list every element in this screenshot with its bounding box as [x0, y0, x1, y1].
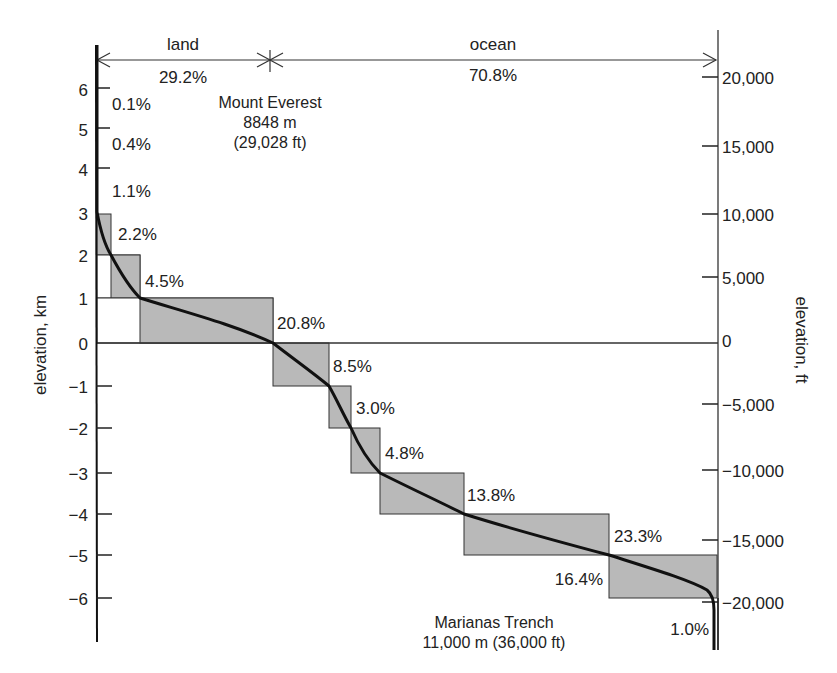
svg-text:6: 6	[79, 81, 88, 100]
svg-text:3.0%: 3.0%	[356, 399, 395, 418]
svg-text:4.5%: 4.5%	[145, 272, 184, 291]
svg-text:8848 m: 8848 m	[243, 114, 296, 131]
left-axis-title: elevation, km	[31, 295, 50, 395]
svg-text:−10,000: −10,000	[722, 462, 784, 481]
svg-text:1: 1	[79, 290, 88, 309]
right-axis-ticks	[702, 77, 718, 602]
svg-text:4.8%: 4.8%	[385, 444, 424, 463]
svg-text:16.4%: 16.4%	[555, 570, 603, 589]
svg-text:Mount Everest: Mount Everest	[218, 94, 322, 111]
land-label: land	[167, 35, 199, 54]
left-axis-tick-labels: 6 5 4 3 2 1 0 −1 −2 −3 −4 −5 −6	[69, 81, 88, 609]
svg-text:1.1%: 1.1%	[112, 182, 151, 201]
svg-text:5: 5	[79, 121, 88, 140]
svg-text:0: 0	[79, 335, 88, 354]
hypsographic-curve	[97, 45, 714, 650]
svg-text:8.5%: 8.5%	[333, 357, 372, 376]
svg-text:20,000: 20,000	[722, 69, 774, 88]
svg-text:Marianas Trench: Marianas Trench	[434, 614, 553, 631]
right-axis-title: elevation, ft	[792, 297, 811, 384]
svg-text:−1: −1	[69, 378, 88, 397]
svg-text:−5,000: −5,000	[722, 396, 774, 415]
svg-text:−6: −6	[69, 590, 88, 609]
ocean-label: ocean	[470, 35, 516, 54]
svg-text:10,000: 10,000	[722, 206, 774, 225]
right-axis-tick-labels: 20,000 15,000 10,000 5,000 0 −5,000 −10,…	[722, 69, 784, 613]
svg-text:4: 4	[79, 161, 88, 180]
ocean-percent: 70.8%	[469, 66, 517, 85]
svg-text:(29,028 ft): (29,028 ft)	[234, 134, 307, 151]
trench-annotation: Marianas Trench 11,000 m (36,000 ft)	[423, 614, 566, 651]
svg-text:5,000: 5,000	[722, 269, 765, 288]
svg-text:11,000 m (36,000 ft): 11,000 m (36,000 ft)	[423, 634, 566, 651]
svg-text:−2: −2	[69, 420, 88, 439]
svg-text:3: 3	[79, 205, 88, 224]
svg-text:−4: −4	[69, 506, 88, 525]
hypsographic-chart: 6 5 4 3 2 1 0 −1 −2 −3 −4 −5 −6 elevatio…	[0, 0, 837, 673]
svg-text:1.0%: 1.0%	[670, 620, 709, 639]
svg-text:−20,000: −20,000	[722, 594, 784, 613]
land-percent: 29.2%	[159, 68, 207, 87]
svg-text:−5: −5	[69, 547, 88, 566]
svg-text:2.2%: 2.2%	[118, 225, 157, 244]
svg-text:2: 2	[79, 247, 88, 266]
svg-text:−3: −3	[69, 465, 88, 484]
svg-text:23.3%: 23.3%	[614, 527, 662, 546]
svg-text:0.4%: 0.4%	[112, 135, 151, 154]
svg-text:−15,000: −15,000	[722, 532, 784, 551]
svg-text:13.8%: 13.8%	[467, 486, 515, 505]
svg-text:15,000: 15,000	[722, 138, 774, 157]
everest-annotation: Mount Everest 8848 m (29,028 ft)	[218, 94, 322, 151]
svg-text:0: 0	[722, 332, 731, 351]
svg-text:0.1%: 0.1%	[112, 95, 151, 114]
svg-text:20.8%: 20.8%	[277, 314, 325, 333]
